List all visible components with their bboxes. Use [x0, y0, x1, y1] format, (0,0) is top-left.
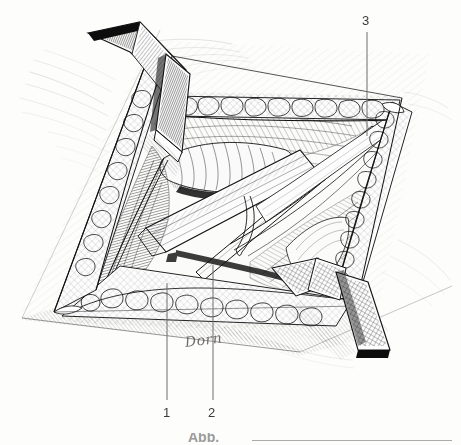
surgical-illustration-figure: 1 2 3 Dorn Abb. — [0, 0, 461, 445]
callout-label-3: 3 — [362, 14, 369, 27]
callout-label-1: 1 — [163, 406, 170, 419]
caption-rule — [252, 440, 452, 441]
figure-caption-text: Abb. — [188, 433, 219, 445]
illustration-canvas — [0, 0, 461, 445]
callout-label-2: 2 — [208, 406, 215, 419]
figure-caption-strip: Abb. — [0, 433, 461, 445]
